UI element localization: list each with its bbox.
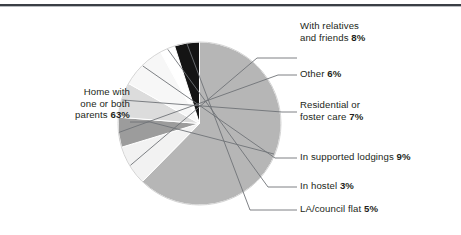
slice-label-in-supported-lodgings: In supported lodgings 9%: [300, 151, 411, 163]
label-line-1: Home with: [84, 86, 130, 97]
label-line-2: and friends: [300, 32, 349, 43]
slice-label-other: Other 6%: [300, 68, 341, 80]
label-line-1: In hostel: [300, 180, 337, 191]
slice-label-residential-or-foster-care: Residential or foster care 7%: [300, 99, 363, 122]
slice-label-la-council-flat: LA/council flat 5%: [300, 203, 378, 215]
slice-label-in-hostel: In hostel 3%: [300, 180, 354, 192]
label-line-1: With relatives: [300, 20, 359, 31]
label-line-2: foster care: [300, 111, 346, 122]
label-line-1: In supported lodgings: [300, 151, 394, 162]
label-line-1: Residential or: [300, 99, 360, 110]
label-line-3: parents: [75, 109, 108, 120]
slice-label-home-with-parents: Home with one or both parents 63%: [18, 86, 130, 121]
label-value: 8%: [351, 32, 365, 43]
slice-label-with-relatives-and-friends: With relatives and friends 8%: [300, 20, 365, 43]
label-line-1: Other: [300, 68, 325, 79]
label-line-1: LA/council flat: [300, 203, 361, 214]
label-value: 63%: [110, 109, 130, 120]
label-value: 9%: [397, 151, 411, 162]
label-value: 6%: [327, 68, 341, 79]
label-value: 3%: [340, 180, 354, 191]
label-value: 7%: [349, 111, 363, 122]
pie-chart-figure: Home with one or both parents 63% With r…: [0, 0, 461, 235]
label-line-2: one or both: [80, 98, 130, 109]
label-value: 5%: [364, 203, 378, 214]
